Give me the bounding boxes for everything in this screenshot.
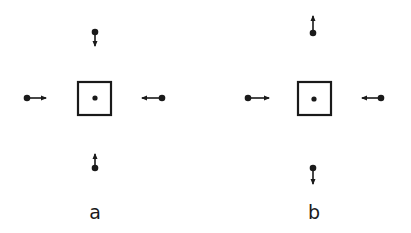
particle-right [362,95,384,102]
particle-dot [378,95,385,102]
particle-left [245,95,269,102]
panel-label: b [308,201,320,223]
particle-dot [310,30,317,37]
central-particle-dot [92,95,97,100]
particle-dot [245,95,252,102]
particle-right [142,95,165,102]
panel-a: a [24,29,166,223]
panel-b: b [245,16,385,223]
particle-dot [24,95,31,102]
particle-dot [159,95,166,102]
particle-top [310,16,317,36]
particle-dot [92,165,99,172]
central-particle-dot [311,96,316,101]
particle-bottom [92,154,99,171]
force-diagram: a b [0,0,411,233]
particle-dot [310,165,317,172]
particle-top [92,29,99,46]
particle-bottom [310,165,317,184]
particle-dot [92,29,99,36]
particle-left [24,95,46,102]
panel-label: a [89,201,101,223]
